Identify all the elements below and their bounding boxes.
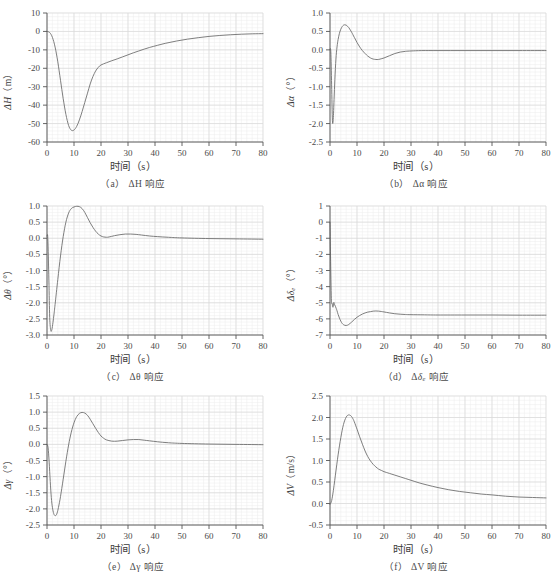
svg-text:50: 50 bbox=[178, 341, 188, 351]
svg-text:0.5: 0.5 bbox=[29, 423, 41, 433]
y-axis-label-c: Δθ（°） bbox=[0, 207, 14, 357]
chart-panel-f: 010203040506070802.52.01.51.00.50.0-0.5 … bbox=[281, 385, 551, 576]
svg-text:60: 60 bbox=[488, 148, 498, 158]
svg-text:10: 10 bbox=[31, 8, 41, 18]
y-axis-label-e: Δγ（°） bbox=[0, 397, 14, 547]
svg-text:-0.5: -0.5 bbox=[26, 249, 41, 259]
svg-text:40: 40 bbox=[434, 148, 444, 158]
svg-text:10: 10 bbox=[70, 341, 80, 351]
svg-text:40: 40 bbox=[434, 341, 444, 351]
svg-text:40: 40 bbox=[434, 531, 444, 541]
plot-svg-a: 01020304050607080100-10-20-30-40-50-60 bbox=[0, 2, 268, 162]
svg-text:0: 0 bbox=[328, 148, 333, 158]
svg-text:-60: -60 bbox=[28, 137, 40, 147]
svg-text:80: 80 bbox=[259, 148, 269, 158]
svg-text:0: 0 bbox=[328, 341, 333, 351]
chart-panel-a: 01020304050607080100-10-20-30-40-50-60 Δ… bbox=[0, 2, 268, 194]
plot-svg-d: 0102030405060708010-1-2-3-4-5-6-7 bbox=[281, 195, 551, 355]
x-axis-label-b: 时间（s） bbox=[281, 158, 551, 173]
svg-text:-1.5: -1.5 bbox=[26, 282, 41, 292]
svg-text:80: 80 bbox=[542, 148, 552, 158]
svg-text:1.0: 1.0 bbox=[29, 201, 41, 211]
svg-text:1: 1 bbox=[319, 201, 324, 211]
svg-text:30: 30 bbox=[124, 148, 134, 158]
svg-text:0: 0 bbox=[45, 531, 50, 541]
svg-text:70: 70 bbox=[515, 531, 525, 541]
plot-svg-c: 010203040506070801.00.50.0-0.5-1.0-1.5-2… bbox=[0, 195, 268, 355]
svg-text:30: 30 bbox=[124, 341, 134, 351]
svg-text:60: 60 bbox=[205, 341, 215, 351]
x-axis-label-e: 时间（s） bbox=[0, 541, 268, 556]
svg-text:50: 50 bbox=[461, 341, 471, 351]
svg-text:-2.5: -2.5 bbox=[309, 137, 324, 147]
chart-panel-c: 010203040506070801.00.50.0-0.5-1.0-1.5-2… bbox=[0, 195, 268, 387]
caption-d-symbol: Δδe bbox=[411, 372, 428, 382]
svg-text:30: 30 bbox=[407, 341, 417, 351]
caption-d-suffix: 响应 bbox=[429, 372, 450, 382]
svg-text:60: 60 bbox=[488, 531, 498, 541]
svg-text:30: 30 bbox=[407, 148, 417, 158]
svg-text:-3.0: -3.0 bbox=[26, 330, 41, 340]
plot-area-f: 010203040506070802.52.01.51.00.50.0-0.5 bbox=[281, 385, 551, 545]
svg-text:80: 80 bbox=[259, 341, 269, 351]
svg-text:60: 60 bbox=[205, 148, 215, 158]
plot-svg-f: 010203040506070802.52.01.51.00.50.0-0.5 bbox=[281, 385, 551, 545]
svg-text:20: 20 bbox=[380, 531, 390, 541]
svg-text:50: 50 bbox=[178, 148, 188, 158]
svg-text:-1.5: -1.5 bbox=[26, 488, 41, 498]
plot-area-d: 0102030405060708010-1-2-3-4-5-6-7 bbox=[281, 195, 551, 355]
figure-grid: 01020304050607080100-10-20-30-40-50-60 Δ… bbox=[0, 0, 553, 576]
y-axis-label-c-unit: （°） bbox=[3, 264, 13, 289]
y-axis-label-c-symbol: Δθ bbox=[3, 289, 13, 300]
svg-text:70: 70 bbox=[515, 148, 525, 158]
y-axis-label-f-unit: （m/s） bbox=[286, 448, 296, 483]
svg-text:0.0: 0.0 bbox=[312, 45, 324, 55]
y-axis-label-f-symbol: ΔV bbox=[286, 484, 296, 496]
caption-b: （b） Δα 响应 bbox=[281, 176, 551, 190]
svg-text:-1.0: -1.0 bbox=[26, 266, 41, 276]
svg-text:10: 10 bbox=[70, 531, 80, 541]
x-axis-label-f: 时间（s） bbox=[281, 541, 551, 556]
svg-text:10: 10 bbox=[353, 531, 363, 541]
svg-text:1.0: 1.0 bbox=[29, 407, 41, 417]
svg-text:1.0: 1.0 bbox=[312, 456, 324, 466]
plot-area-b: 010203040506070801.00.50.0-0.5-1.0-1.5-2… bbox=[281, 2, 551, 162]
svg-text:1.5: 1.5 bbox=[29, 391, 41, 401]
svg-text:-1.5: -1.5 bbox=[309, 100, 324, 110]
y-axis-label-e-unit: （°） bbox=[3, 455, 13, 480]
caption-d-prefix: （d） bbox=[383, 372, 409, 382]
svg-text:40: 40 bbox=[151, 341, 161, 351]
svg-text:30: 30 bbox=[124, 531, 134, 541]
svg-text:10: 10 bbox=[70, 148, 80, 158]
svg-text:10: 10 bbox=[353, 148, 363, 158]
svg-text:70: 70 bbox=[515, 341, 525, 351]
svg-text:-2.0: -2.0 bbox=[26, 298, 41, 308]
svg-text:0.5: 0.5 bbox=[312, 477, 324, 487]
y-axis-label-a-symbol: ΔH bbox=[3, 97, 13, 110]
svg-text:0: 0 bbox=[328, 531, 333, 541]
plot-area-c: 010203040506070801.00.50.0-0.5-1.0-1.5-2… bbox=[0, 195, 268, 355]
svg-text:0: 0 bbox=[319, 217, 324, 227]
svg-text:50: 50 bbox=[461, 148, 471, 158]
svg-text:-6: -6 bbox=[316, 314, 324, 324]
svg-text:-1.0: -1.0 bbox=[309, 82, 324, 92]
x-axis-label-c: 时间（s） bbox=[0, 351, 268, 366]
y-axis-label-e-symbol: Δγ bbox=[3, 479, 13, 489]
svg-text:80: 80 bbox=[259, 531, 269, 541]
plot-svg-b: 010203040506070801.00.50.0-0.5-1.0-1.5-2… bbox=[281, 2, 551, 162]
chart-panel-b: 010203040506070801.00.50.0-0.5-1.0-1.5-2… bbox=[281, 2, 551, 194]
svg-text:20: 20 bbox=[97, 531, 107, 541]
svg-text:-2.0: -2.0 bbox=[309, 119, 324, 129]
caption-e: （e） Δγ 响应 bbox=[0, 559, 268, 573]
y-axis-label-b: Δα（°） bbox=[283, 14, 297, 164]
svg-text:60: 60 bbox=[488, 341, 498, 351]
svg-text:80: 80 bbox=[542, 341, 552, 351]
svg-text:-0.5: -0.5 bbox=[309, 520, 324, 530]
chart-panel-e: 010203040506070801.51.00.50.0-0.5-1.0-1.… bbox=[0, 385, 268, 576]
y-axis-label-b-symbol: Δα bbox=[286, 96, 296, 107]
x-axis-label-a: 时间（s） bbox=[0, 158, 268, 173]
svg-text:1.5: 1.5 bbox=[312, 434, 324, 444]
caption-a: （a） ΔH 响应 bbox=[0, 176, 268, 190]
caption-d: （d） Δδe 响应 bbox=[281, 369, 551, 383]
svg-text:60: 60 bbox=[205, 531, 215, 541]
